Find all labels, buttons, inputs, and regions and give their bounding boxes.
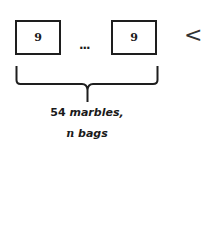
caption-marbles: 54 marbles,	[36, 106, 138, 119]
caption-bags: n bags	[36, 127, 138, 140]
bags-label: bags	[74, 127, 108, 140]
marbles-label: marbles,	[66, 106, 124, 119]
marble-count: 54	[50, 106, 65, 119]
